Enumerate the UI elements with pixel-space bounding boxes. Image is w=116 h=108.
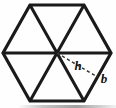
apothem-label: h bbox=[74, 58, 81, 73]
hexagon-figure: h b bbox=[0, 0, 116, 108]
hexagon-diagram-svg: h b bbox=[0, 0, 116, 108]
base-label: b bbox=[101, 71, 108, 86]
